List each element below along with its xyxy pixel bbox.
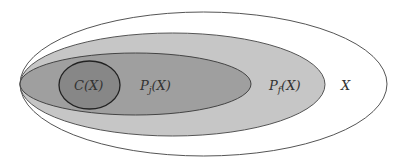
nested-sets-diagram: C(X) Pj(X) Pf(X) X [0, 0, 401, 166]
label-pf-arg: (X) [281, 78, 300, 93]
label-pf-main: P [268, 78, 278, 93]
label-pj: Pj(X) [139, 78, 171, 95]
label-pj-arg: (X) [152, 78, 171, 93]
label-x: X [340, 78, 351, 93]
label-pj-main: P [139, 78, 149, 93]
label-pf: Pf(X) [268, 78, 301, 95]
set-pj-ellipse [20, 53, 251, 115]
label-c: C(X) [74, 78, 103, 93]
